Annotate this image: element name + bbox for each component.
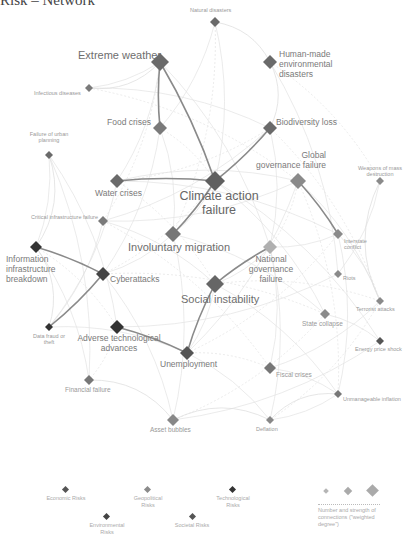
node-human-made-icon[interactable] — [263, 55, 277, 69]
legend-societal: Societal Risks — [172, 522, 212, 529]
label-fiscal-crises: Fiscal crises — [276, 371, 312, 378]
node-info-infra-icon[interactable] — [30, 241, 42, 253]
node-riots-icon[interactable] — [334, 270, 342, 278]
node-financial-failure-icon[interactable] — [84, 375, 94, 385]
node-fiscal-icon[interactable] — [264, 362, 276, 374]
label-deflation: Deflation — [256, 426, 278, 432]
node-unmanageable-inflation-icon[interactable] — [334, 390, 342, 398]
legend-environmental: Environmental Risks — [84, 522, 130, 536]
node-natural-disasters-icon[interactable] — [210, 17, 220, 27]
label-involuntary-migration: Involuntary migration — [128, 241, 230, 254]
node-critical-infra-icon[interactable] — [98, 216, 108, 226]
label-unmanageable-inflation: Unmanageable inflation — [343, 396, 401, 402]
label-asset-bubbles: Asset bubbles — [150, 426, 191, 433]
label-interstate-conflict: Interstate conflict — [344, 238, 378, 251]
label-global-governance-failure: Global governance failure — [256, 151, 326, 171]
label-infectious-diseases: Infectious diseases — [34, 90, 81, 96]
label-data-fraud: Data fraud or theft — [30, 333, 68, 346]
node-energy-price-icon[interactable] — [376, 337, 384, 345]
label-financial-failure: Financial failure — [65, 386, 111, 393]
label-wmd: Weapons of mass destruction — [357, 165, 403, 178]
label-unemployment: Unemployment — [160, 360, 217, 370]
node-infectious-icon[interactable] — [85, 84, 93, 92]
label-riots: Riots — [343, 275, 356, 281]
label-climate-action-failure: Climate action failure — [178, 189, 260, 218]
label-urban-planning: Failure of urban planning — [26, 131, 72, 144]
label-extreme-weather: Extreme weather — [78, 49, 161, 62]
label-national-governance: National governance failure — [246, 255, 296, 284]
label-food-crises: Food crises — [107, 118, 151, 128]
legend-size-arrow — [318, 504, 380, 505]
legend-economic: Economic Risks — [46, 495, 86, 502]
label-critical-infrastructure: Critical infrastructure failure — [20, 214, 98, 220]
label-natural-disasters: Natural disasters — [190, 7, 231, 13]
label-terrorist-attacks: Terrorist attacks — [356, 306, 395, 312]
label-water-crises: Water crises — [95, 189, 142, 199]
node-climate-action-icon[interactable] — [205, 171, 225, 191]
label-state-collapse: State collapse — [302, 320, 343, 327]
node-asset-bubbles-icon[interactable] — [167, 414, 179, 426]
label-adverse-tech: Adverse technological advances — [74, 334, 164, 354]
node-wmd-icon[interactable] — [376, 177, 384, 185]
node-social-instability-icon[interactable] — [206, 275, 224, 293]
label-biodiversity-loss: Biodiversity loss — [276, 118, 337, 128]
legend-technological: Technological Risks — [212, 495, 254, 509]
legend-geopolitical: Geopolitical Risks — [128, 495, 168, 509]
node-food-crises-icon[interactable] — [153, 121, 167, 135]
legend-size-caption: Number and strength of connections ("wei… — [318, 507, 382, 528]
node-water-crises-icon[interactable] — [110, 174, 124, 188]
label-energy-price-shock: Energy price shock — [355, 346, 402, 352]
label-cyberattacks: Cyberattacks — [110, 275, 160, 285]
label-human-made-disasters: Human-made environmental disasters — [279, 50, 339, 79]
node-urban-planning-icon[interactable] — [45, 151, 53, 159]
label-social-instability: Social instability — [181, 293, 259, 306]
label-info-infrastructure: Information infrastructure breakdown — [6, 255, 62, 284]
